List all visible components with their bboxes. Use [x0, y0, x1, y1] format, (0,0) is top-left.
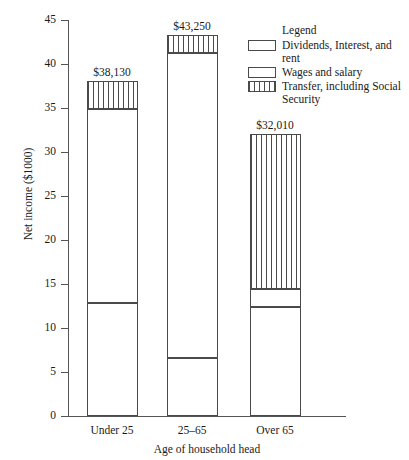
x-axis-title: Age of household head [68, 443, 346, 455]
legend-label-dividends: Dividends, Interest, and rent [282, 39, 409, 65]
y-tick-label: 10 [20, 322, 56, 334]
bar-segment-transfer [87, 81, 138, 109]
legend-label-wages: Wages and salary [282, 66, 409, 79]
legend-swatch-dividends-icon [248, 40, 276, 51]
y-tick-label: 40 [20, 58, 56, 70]
legend-swatch-wages-icon [248, 67, 276, 78]
bar-segment-transfer [167, 35, 218, 53]
y-axis-line [68, 20, 69, 416]
x-category-label-under-25: Under 25 [67, 424, 157, 436]
bar-value-25-65: $43,250 [147, 20, 237, 32]
bar-under-25 [87, 81, 138, 416]
bar-segment-wages [167, 53, 218, 358]
bar-segment-dividends [87, 303, 138, 416]
bar-segment-wages [87, 109, 138, 304]
y-axis-title: Net income ($1000) [22, 104, 34, 284]
bar-segment-wages [250, 289, 301, 307]
bar-segment-transfer [250, 134, 301, 289]
y-tick-label: 0 [20, 410, 56, 422]
bar-segment-dividends [250, 307, 301, 416]
x-axis-line [68, 416, 346, 417]
legend-label-transfer: Transfer, including Social [282, 80, 409, 93]
bar-over-65 [250, 134, 301, 416]
bar-value-under-25: $38,130 [67, 66, 157, 78]
legend-swatch-transfer-icon [248, 81, 276, 92]
legend-item-transfer: Transfer, including Social Security [246, 80, 409, 106]
legend-item-dividends: Dividends, Interest, and rent [246, 39, 409, 65]
bar-segment-dividends [167, 358, 218, 416]
stacked-bar-chart: 45 40 35 30 25 20 15 10 5 0 Net income (… [0, 0, 409, 460]
y-tick-label: 5 [20, 366, 56, 378]
legend-label-transfer-continued: Security [282, 93, 409, 106]
x-category-label-25-65: 25–65 [147, 424, 237, 436]
y-tick-label: 45 [20, 14, 56, 26]
bar-value-over-65: $32,010 [230, 119, 320, 131]
bar-25-65 [167, 35, 218, 416]
legend-title: Legend [282, 24, 409, 36]
x-category-label-over-65: Over 65 [230, 424, 320, 436]
legend: Legend Dividends, Interest, and rent Wag… [246, 24, 409, 107]
legend-item-wages: Wages and salary [246, 66, 409, 79]
